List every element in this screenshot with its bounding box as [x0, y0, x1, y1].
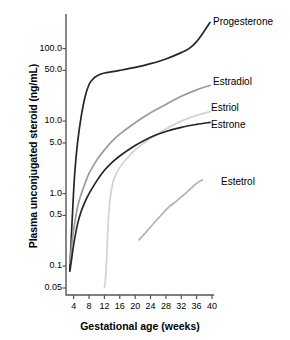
- series-curve-estriol: [104, 112, 210, 288]
- series-curve-estrone: [70, 122, 210, 271]
- series-curve-estradiol: [70, 85, 210, 263]
- chart-figure: Plasma unconjugated steroid (ng/mL) Gest…: [0, 0, 290, 340]
- plot-area: [0, 0, 290, 340]
- series-curve-estetrol: [139, 180, 202, 240]
